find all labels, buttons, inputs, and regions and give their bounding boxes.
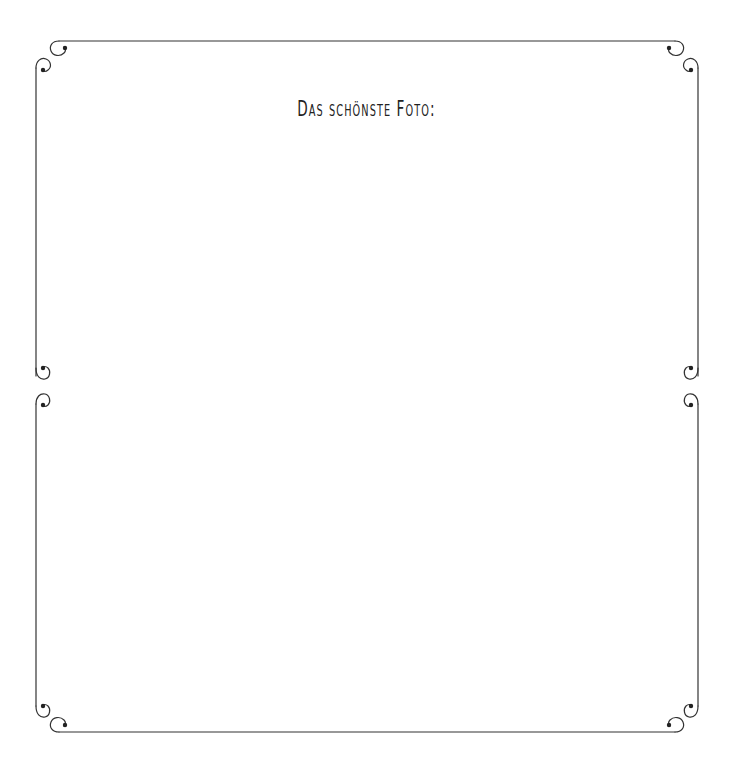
photo-panel-bottom bbox=[36, 392, 698, 732]
page-title: Das schönste Foto: bbox=[102, 97, 630, 121]
scrapbook-page: Das schönste Foto: bbox=[0, 0, 733, 772]
photo-panel-top bbox=[36, 41, 698, 384]
